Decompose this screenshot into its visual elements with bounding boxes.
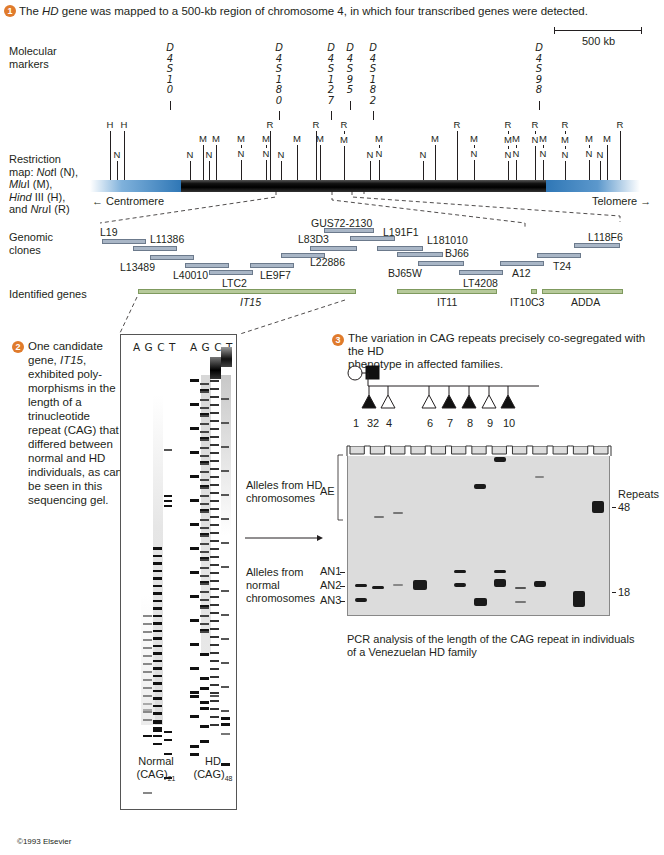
- repeats-label: Repeats: [618, 488, 659, 501]
- pcr-band: [454, 583, 466, 587]
- ae-bracket: [337, 455, 345, 525]
- individual-8-triangle: [462, 395, 476, 408]
- sequencing-gel: AGCT AGCT Normal (CAG)21 HD (CAG)48: [120, 334, 237, 810]
- pcr-band: [454, 570, 466, 573]
- zoom-lines-gel: [0, 0, 664, 340]
- step-3-badge: 3: [332, 334, 344, 346]
- step-2-line: exhibited poly-: [28, 367, 122, 381]
- an2-label: AN2: [320, 579, 341, 592]
- individual-10-triangle: [501, 395, 515, 408]
- pcr-band: [372, 586, 384, 589]
- step-3-line: The variation in CAG repeats precisely c…: [348, 332, 664, 358]
- an1-label: AN1: [320, 565, 341, 578]
- pcr-band: [535, 476, 544, 478]
- pedigree-number: 3: [364, 417, 376, 430]
- pcr-gel: [347, 446, 610, 616]
- pcr-band: [374, 516, 384, 518]
- step-2-caption: One candidategene, IT15,exhibited poly-m…: [28, 339, 122, 507]
- step-2-line: repeat (CAG) that: [28, 423, 122, 437]
- step-2-line: One candidate: [28, 339, 122, 353]
- step-2-line: morphisms in the: [28, 381, 122, 395]
- an2-tick: [340, 586, 345, 587]
- step-2-line: gene, IT15,: [28, 353, 122, 367]
- pcr-band: [355, 598, 367, 602]
- pcr-band: [494, 570, 506, 573]
- an1-tick: [340, 572, 345, 573]
- tick-48: [612, 507, 616, 508]
- pedigree-number: 1: [350, 417, 362, 430]
- an3-tick: [340, 601, 345, 602]
- pcr-caption-line: of a Venezuelan HD family: [347, 646, 634, 659]
- pcr-band: [573, 591, 585, 607]
- individual-9-triangle: [482, 395, 496, 408]
- hd-alleles-line: chromosomes: [246, 492, 322, 505]
- step-2-line: trinucleotide: [28, 409, 122, 423]
- individual-3-triangle: [362, 395, 376, 408]
- pedigree-chart: [340, 362, 580, 422]
- pcr-band: [474, 598, 487, 606]
- pcr-band: [534, 581, 546, 587]
- gel-wells: [346, 442, 612, 456]
- pcr-band: [474, 484, 486, 489]
- repeats-18-label: 18: [618, 586, 630, 599]
- individual-1-circle: [348, 366, 362, 380]
- hd-label: HD (CAG)48: [193, 755, 233, 785]
- ae-label: AE: [320, 485, 335, 498]
- normal-alleles-line: normal: [246, 579, 315, 592]
- hd-alleles-line: Alleles from HD: [246, 479, 322, 492]
- normal-alleles-label: Alleles fromnormalchromosomes: [246, 566, 315, 605]
- arrow-right-icon: [245, 534, 325, 542]
- pedigree-number: 8: [464, 417, 476, 430]
- normal-alleles-line: Alleles from: [246, 566, 315, 579]
- pcr-caption: PCR analysis of the length of the CAG re…: [347, 633, 634, 659]
- normal-lane-headers: AGCT: [133, 341, 180, 353]
- pcr-band: [592, 501, 604, 513]
- pcr-band: [355, 584, 367, 587]
- pcr-band: [393, 512, 403, 514]
- individual-6-triangle: [422, 395, 436, 408]
- tick-18: [612, 592, 616, 593]
- copyright: ©1993 Elsevier: [17, 837, 71, 846]
- normal-text: Normal: [136, 755, 176, 768]
- pcr-band: [494, 579, 506, 587]
- pcr-caption-line: PCR analysis of the length of the CAG re…: [347, 633, 634, 646]
- step-2-line: individuals, as can: [28, 465, 122, 479]
- normal-cag: (CAG)21: [136, 768, 176, 785]
- normal-alleles-line: chromosomes: [246, 592, 315, 605]
- individual-4-triangle: [381, 395, 395, 408]
- pcr-band: [515, 587, 526, 589]
- pcr-band: [393, 584, 403, 586]
- pedigree-number: 7: [444, 417, 456, 430]
- individual-7-triangle: [442, 395, 456, 408]
- step-2-line: be seen in this: [28, 479, 122, 493]
- pedigree-number: 6: [424, 417, 436, 430]
- step-2-line: differed between: [28, 437, 122, 451]
- step-2-badge: 2: [12, 341, 24, 353]
- hd-text: HD: [193, 755, 233, 768]
- pcr-band: [515, 601, 526, 603]
- hd-alleles-label: Alleles from HDchromosomes: [246, 479, 322, 505]
- hd-cag: (CAG)48: [193, 768, 233, 785]
- normal-label: Normal (CAG)21: [136, 755, 176, 785]
- pedigree-number: 4: [383, 417, 395, 430]
- pedigree-number: 10: [503, 417, 515, 430]
- step-2-line: length of a: [28, 395, 122, 409]
- an3-label: AN3: [320, 594, 341, 607]
- step-2-line: sequencing gel.: [28, 493, 122, 507]
- repeats-48-label: 48: [618, 501, 630, 514]
- pcr-band: [494, 457, 506, 462]
- pcr-band: [413, 580, 427, 590]
- step-2-line: normal and HD: [28, 451, 122, 465]
- pedigree-number: 9: [484, 417, 496, 430]
